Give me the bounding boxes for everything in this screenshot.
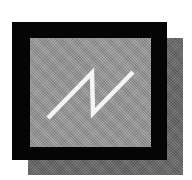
screen-panel [30, 38, 151, 147]
screen-frame [12, 22, 167, 160]
waveform-line [48, 72, 133, 118]
waveform-display-icon [0, 0, 192, 180]
sawtooth-wave-icon [30, 38, 151, 147]
